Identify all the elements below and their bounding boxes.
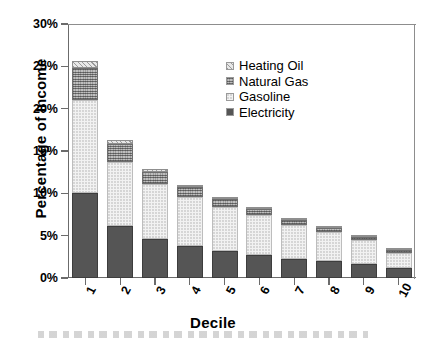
legend-item-label: Gasoline [239,90,290,103]
bar-segment-heating-oil[interactable] [72,61,98,68]
bar-segment-heating-oil[interactable] [281,218,307,220]
x-axis-tick-label: 2 [114,276,139,306]
bar-segment-gasoline[interactable] [281,225,307,259]
x-axis-tick-label: 6 [253,276,278,306]
chart-legend: Heating OilNatural GasGasolineElectricit… [226,58,342,120]
bar-segment-electricity[interactable] [316,261,342,278]
bar-segment-heating-oil[interactable] [177,185,203,188]
caption-text-strip [38,331,368,338]
x-axis-tick [398,278,399,285]
bar-segment-natural-gas[interactable] [142,172,168,184]
bar-segment-gasoline[interactable] [72,100,98,193]
bar-segment-electricity[interactable] [386,268,412,278]
bar-segment-natural-gas[interactable] [351,237,377,240]
bar-segment-natural-gas[interactable] [386,250,412,253]
bar-segment-electricity[interactable] [212,251,238,278]
bar-segment-electricity[interactable] [107,226,133,278]
legend-item-heatingoil[interactable]: Heating Oil [226,58,342,74]
legend-swatch-heatingoil-icon [226,62,234,70]
y-axis-tick [61,66,68,67]
bar-segment-natural-gas[interactable] [316,228,342,232]
bar-segment-natural-gas[interactable] [177,187,203,196]
bar-segment-electricity[interactable] [72,193,98,278]
y-axis-tick [61,150,68,151]
legend-swatch-gasoline-icon [226,93,234,101]
bar-segment-natural-gas[interactable] [72,68,98,100]
legend-item-label: Heating Oil [239,59,303,72]
legend-swatch-naturalgas-icon [226,77,234,85]
legend-item-label: Natural Gas [239,75,308,88]
bar-segment-gasoline[interactable] [212,207,238,251]
bar-segment-natural-gas[interactable] [107,144,133,162]
legend-item-gasoline[interactable]: Gasoline [226,89,342,105]
bar-segment-heating-oil[interactable] [351,235,377,237]
bar-segment-electricity[interactable] [142,239,168,278]
y-axis-tick [61,277,68,278]
x-axis-tick-label: 9 [358,276,383,306]
bar-segment-natural-gas[interactable] [281,220,307,225]
bar-segment-heating-oil[interactable] [212,197,238,200]
legend-item-naturalgas[interactable]: Natural Gas [226,74,342,90]
x-axis-tick [224,278,225,285]
x-axis-tick-label: 1 [79,276,104,306]
bar-segment-gasoline[interactable] [246,215,272,255]
y-axis-tick-label: 30% [2,18,58,31]
legend-swatch-electricity-icon [226,108,234,116]
x-axis-tick-label: 4 [184,276,209,306]
y-axis-tick [61,235,68,236]
x-axis-tick-label: 10 [392,276,417,306]
y-axis-tick-label: 20% [2,103,58,116]
y-axis-tick [61,108,68,109]
x-axis-tick-label: 8 [323,276,348,306]
y-axis-tick-label: 15% [2,145,58,158]
bar-segment-electricity[interactable] [177,246,203,278]
bar-segment-heating-oil[interactable] [386,248,412,250]
y-axis-tick-label: 5% [2,230,58,243]
bar-segment-electricity[interactable] [281,259,307,278]
bar-segment-gasoline[interactable] [351,240,377,265]
legend-item-electricity[interactable]: Electricity [226,105,342,121]
bar-segment-heating-oil[interactable] [142,169,168,172]
y-axis-tick-label: 25% [2,60,58,73]
bar-segment-heating-oil[interactable] [107,140,133,144]
bar-segment-gasoline[interactable] [142,184,168,239]
bar-segment-electricity[interactable] [351,264,377,278]
bar-segment-natural-gas[interactable] [212,199,238,207]
legend-item-label: Electricity [239,106,295,119]
bar-segment-gasoline[interactable] [107,162,133,226]
bar-segment-gasoline[interactable] [177,197,203,246]
bar-segment-natural-gas[interactable] [246,209,272,216]
bar-segment-gasoline[interactable] [386,253,412,268]
x-axis-title: Decile [0,314,426,331]
x-axis-tick-label: 7 [288,276,313,306]
x-axis-tick-label: 3 [149,276,174,306]
y-axis-tick-label: 10% [2,187,58,200]
y-axis-tick-label: 0% [2,272,58,285]
stacked-bar-chart: Percentage of Income 0%5%10%15%20%25%30%… [0,0,426,340]
bar-segment-gasoline[interactable] [316,232,342,261]
bar-segment-electricity[interactable] [246,255,272,278]
y-axis-tick [61,23,68,24]
bar-segment-heating-oil[interactable] [246,207,272,209]
y-axis-tick [61,193,68,194]
bar-segment-heating-oil[interactable] [316,226,342,228]
x-axis-tick-label: 5 [218,276,243,306]
